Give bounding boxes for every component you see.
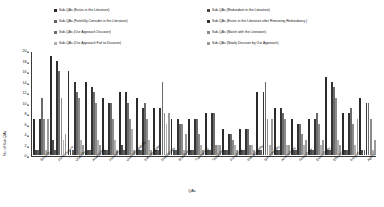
x-axis-tick: Portability [221,158,238,192]
y-axis-tick-label: 6 [25,124,27,128]
bar-group [222,52,239,155]
y-axis-tick-mark [27,52,29,53]
bar-group [273,52,290,155]
chart-legend: Sub-QAs (Exists in the Literature)Sub-QA… [54,5,354,49]
bar-group [50,52,67,155]
legend-entry[interactable]: Sub-QAs (Our Approach Fail to Discover) [54,38,201,49]
y-axis-title: No. of Sub-QAs [4,131,8,156]
bar-group [33,52,50,155]
y-axis-tick-label: 2 [25,145,27,149]
x-axis-tick: Scalability [169,158,186,192]
y-axis-tick-label: 14 [23,82,27,86]
y-axis-tick-mark [27,104,29,105]
x-axis: SecurityPerformanceUsabilityAvailability… [32,158,376,192]
x-axis-tick: Testability [204,158,221,192]
x-axis-tick: Modifiability [152,158,169,192]
bar-group [84,52,101,155]
y-axis-tick-label: 20 [23,50,27,54]
x-axis-tick: Reusability [290,158,307,192]
y-axis-tick-label: 10 [23,103,27,107]
x-axis-tick: Performance [49,158,66,192]
legend-swatch-icon [207,9,210,12]
x-axis-tick: Security [32,158,49,192]
y-axis-tick-mark [27,146,29,147]
legend-swatch-icon [207,31,210,34]
legend-label: Sub-QAs (Our Approach Fail to Discover) [59,38,121,49]
bar-group [342,52,359,155]
legend-entry[interactable]: Sub-QAs (Match with the Literature) [207,27,354,38]
y-axis-tick-mark [27,73,29,74]
bar[interactable] [359,98,361,156]
y-axis-tick-label: 4 [25,134,27,138]
legend-entry[interactable]: Sub-QAs (Exists in the Literature after … [207,16,354,27]
legend-label: Sub-QAs (Newly Discover by Our Approach) [212,38,279,49]
x-axis-tick: Traceability [187,158,204,192]
legend-entry[interactable]: Sub-QAs (Fatefully Consider in the Liter… [54,16,201,27]
x-axis-tick: Serviceability [256,158,273,192]
legend-entry[interactable]: Sub-QAs (Our Approach Discover) [54,27,201,38]
bar-group [101,52,118,155]
y-axis-tick-mark [27,115,29,116]
y-axis-tick-label: 0 [25,155,27,159]
y-axis-tick-mark [27,94,29,95]
y-axis-tick-label: 18 [23,61,27,65]
bar-group [119,52,136,155]
x-axis-tick: Flexibility [101,158,118,192]
bar-chart: Sub-QAs (Exists in the Literature)Sub-QA… [0,0,384,207]
bar-group [239,52,256,155]
bar-group [256,52,273,155]
legend-label: Sub-QAs (Our Approach Discover) [59,27,111,38]
bar-group [67,52,84,155]
x-axis-tick: Extensibility [307,158,324,192]
x-axis-tick: Efficiency [324,158,341,192]
bar-group [153,52,170,155]
bar-group [170,52,187,155]
legend-label: Sub-QAs (Redundant in the Literature) [212,5,270,16]
x-axis-tick: Agility [359,158,376,192]
y-axis-tick-mark [27,83,29,84]
legend-label: Sub-QAs (Exists in the Literature after … [212,16,307,27]
x-axis-tick: Maintainability [135,158,152,192]
bar-group [204,52,221,155]
legend-entry[interactable]: Sub-QAs (Newly Discover by Our Approach) [207,38,354,49]
legend-swatch-icon [207,20,210,23]
legend-swatch-icon [207,42,210,45]
y-axis-tick-label: 8 [25,113,27,117]
bar-group [187,52,204,155]
x-axis-tick: Accessibility [273,158,290,192]
bar-group [307,52,324,155]
legend-label: Sub-QAs (Match with the Literature) [212,27,266,38]
bar-group [290,52,307,155]
bar[interactable] [68,71,70,155]
legend-swatch-icon [54,9,57,12]
plot-area [31,52,376,157]
y-axis-tick-mark [27,62,29,63]
bar[interactable] [85,82,87,156]
plot-frame [31,52,376,157]
y-axis-tick-mark [27,125,29,126]
x-axis-tick: Integrity [342,158,359,192]
legend-entry[interactable]: Sub-QAs (Redundant in the Literature) [207,5,354,16]
legend-swatch-icon [54,31,57,34]
legend-entry[interactable]: Sub-QAs (Exists in the Literature) [54,5,201,16]
bar-group [359,52,376,155]
legend-swatch-icon [54,42,57,45]
y-axis: No. of Sub-QAs 02468101214161820 [8,52,29,157]
x-axis-tick: Availability [83,158,100,192]
y-axis-tick-mark [27,157,29,158]
x-axis-tick: Understandability [118,158,135,192]
y-axis-tick-mark [27,136,29,137]
bars-layer [33,52,376,155]
y-axis-tick-label: 16 [23,71,27,75]
y-axis-tick-label: 12 [23,92,27,96]
bar[interactable] [325,77,327,156]
x-axis-title: QAs [0,189,384,193]
x-axis-tick: Manageability [238,158,255,192]
x-axis-tick: Usability [66,158,83,192]
bar-group [325,52,342,155]
legend-label: Sub-QAs (Fatefully Consider in the Liter… [59,16,128,27]
legend-swatch-icon [54,20,57,23]
legend-label: Sub-QAs (Exists in the Literature) [59,5,109,16]
